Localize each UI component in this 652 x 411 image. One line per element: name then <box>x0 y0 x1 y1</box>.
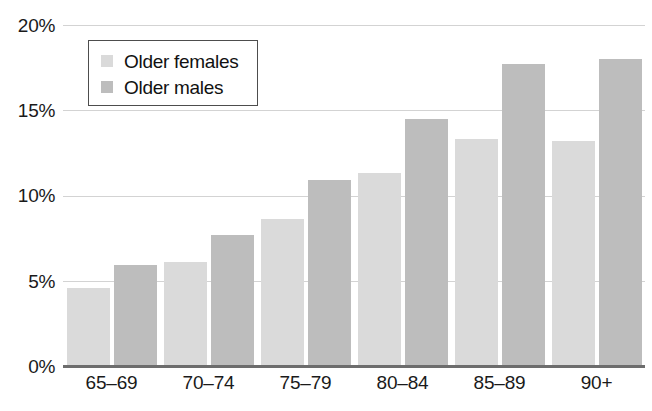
bar-chart: 20% 15% 10% 5% 0% <box>0 0 652 411</box>
legend-entry-older-males: Older males <box>101 74 257 100</box>
x-axis-tick-labels: 65–69 70–74 75–79 80–84 85–89 90+ <box>63 372 645 394</box>
x-axis-tick-label-70-74: 70–74 <box>160 372 257 394</box>
bar-older-females-80-84 <box>358 173 401 366</box>
x-axis-tick-label-80-84: 80–84 <box>354 372 451 394</box>
bar-group-75-79 <box>257 25 354 366</box>
bar-older-females-70-74 <box>164 262 207 366</box>
y-axis-tick-label-15: 15% <box>0 101 55 120</box>
bar-older-males-75-79 <box>308 180 351 366</box>
legend-label-older-females: Older females <box>124 52 238 71</box>
x-axis-tick-label-65-69: 65–69 <box>63 372 160 394</box>
bar-older-females-85-89 <box>455 139 498 366</box>
bar-group-90-plus <box>548 25 645 366</box>
y-axis-tick-label-0: 0% <box>0 357 55 376</box>
bar-older-males-70-74 <box>211 235 254 366</box>
bar-older-males-65-69 <box>114 265 157 366</box>
y-axis-tick-label-20: 20% <box>0 16 55 35</box>
legend-swatch-female-icon <box>101 55 113 67</box>
bar-older-females-75-79 <box>261 219 304 366</box>
bar-older-males-85-89 <box>502 64 545 366</box>
legend-label-older-males: Older males <box>124 78 223 97</box>
x-axis-line <box>63 365 645 368</box>
bar-group-80-84 <box>354 25 451 366</box>
bar-group-85-89 <box>451 25 548 366</box>
legend-swatch-male-icon <box>101 81 113 93</box>
bar-older-males-90-plus <box>599 59 642 366</box>
bar-older-males-80-84 <box>405 119 448 366</box>
y-axis-tick-label-5: 5% <box>0 272 55 291</box>
x-axis-tick-label-85-89: 85–89 <box>451 372 548 394</box>
chart-legend: Older females Older males <box>88 40 258 106</box>
bar-older-females-90-plus <box>552 141 595 366</box>
legend-entry-older-females: Older females <box>101 48 257 74</box>
bar-older-females-65-69 <box>67 288 110 366</box>
x-axis-tick-label-75-79: 75–79 <box>257 372 354 394</box>
y-axis-tick-label-10: 10% <box>0 186 55 205</box>
x-axis-tick-label-90-plus: 90+ <box>548 372 645 394</box>
